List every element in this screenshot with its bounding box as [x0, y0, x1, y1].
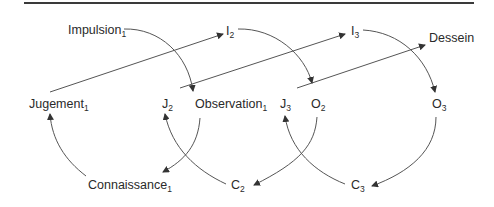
node-c2: C2 — [231, 179, 245, 194]
edge-c2-j2 — [165, 114, 226, 184]
node-observation1: Observation1 — [195, 98, 267, 113]
edge-impulsion1-observation1 — [124, 29, 193, 91]
node-j3: J3 — [280, 98, 291, 113]
node-impulsion1: Impulsion1 — [68, 24, 126, 39]
node-o3: O3 — [432, 98, 446, 113]
edge-i2-o2 — [238, 29, 312, 83]
node-c3: C3 — [351, 179, 365, 194]
edge-o2-c2 — [254, 117, 317, 185]
node-i2: I2 — [226, 25, 234, 40]
node-o2: O2 — [311, 98, 325, 113]
edge-j3-dessein — [297, 45, 425, 88]
node-dessein: Dessein — [429, 32, 474, 45]
edge-c3-j3 — [285, 116, 345, 184]
node-jugement1: Jugement1 — [29, 98, 89, 113]
node-i3: I3 — [351, 25, 359, 40]
node-j2: J2 — [162, 98, 173, 113]
node-connaissance1: Connaissance1 — [88, 179, 172, 194]
edge-i3-o3 — [363, 30, 435, 92]
edge-jugement1-i2 — [50, 34, 223, 92]
cycle-diagram: Impulsion1 I2 I3 Dessein Jugement1 J2 Ob… — [0, 0, 494, 207]
edge-o3-c3 — [372, 117, 436, 186]
edge-connaissance1-jugement1 — [50, 114, 86, 176]
